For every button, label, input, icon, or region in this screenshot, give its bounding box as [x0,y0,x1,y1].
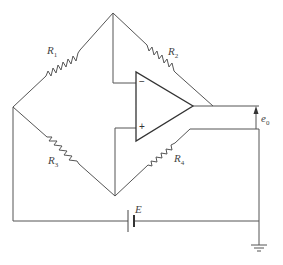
label-battery-e: E [135,204,142,215]
output-voltage-arrow [254,106,259,129]
resistor-r2 [113,13,213,106]
opamp-noninverting-sign: + [139,122,145,132]
label-r4: R4 [174,153,184,167]
opamp-inverting-sign: − [139,77,145,87]
ground-icon [251,245,267,251]
wire-left-bottom [13,107,128,221]
circuit-drawing [0,0,283,265]
resistor-r3 [13,107,115,196]
label-r3: R3 [48,155,58,169]
wire-reference [190,129,259,245]
label-r2: R2 [168,46,178,60]
label-r1: R1 [47,45,57,59]
resistor-r1 [13,13,113,107]
label-output-e0: e0 [261,113,269,127]
battery-symbol [128,210,134,232]
bridge-circuit-diagram: R1 R2 R3 R4 E e0 − + [0,0,283,265]
